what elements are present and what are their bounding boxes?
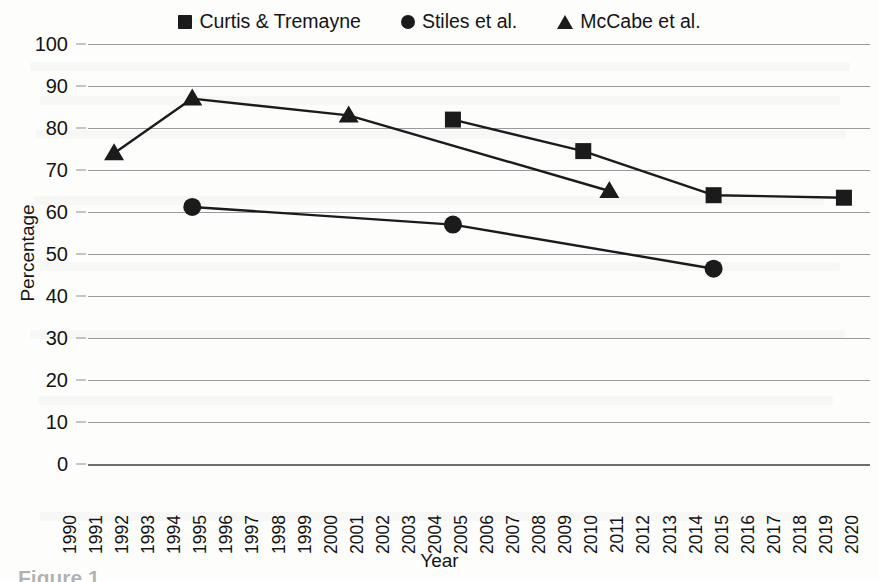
data-point-triangle: [104, 143, 124, 160]
legend-item-mccabe: McCabe et al.: [557, 12, 700, 32]
x-tick-label: 1999: [296, 515, 314, 554]
x-tick-label: 1990: [62, 515, 80, 554]
x-tick-label: 2008: [531, 515, 549, 554]
legend-item-stiles: Stiles et al.: [401, 12, 517, 32]
gridline: [88, 464, 870, 466]
series-circle: [183, 198, 722, 278]
data-point-triangle: [182, 89, 202, 106]
x-tick-label: 2009: [557, 515, 575, 554]
x-tick-label: 2005: [453, 515, 471, 554]
x-tick-label: 2010: [583, 515, 601, 554]
chart-legend: Curtis & Tremayne Stiles et al. McCabe e…: [0, 12, 879, 32]
x-tick-label: 2017: [765, 515, 783, 554]
y-tick-label: 60: [12, 202, 68, 222]
x-tick-label: 2001: [348, 515, 366, 554]
x-tick-label: 1996: [218, 515, 236, 554]
x-tick-label: 2002: [374, 515, 392, 554]
x-tick-label: 1991: [88, 515, 106, 554]
y-tick-mark: [76, 422, 86, 423]
data-point-circle: [183, 198, 201, 216]
y-tick-mark: [76, 338, 86, 339]
legend-label: Curtis & Tremayne: [199, 12, 360, 32]
x-tick-label: 1993: [140, 515, 158, 554]
x-tick-label: 2006: [479, 515, 497, 554]
legend-label: Stiles et al.: [422, 12, 517, 32]
series-line: [114, 99, 609, 191]
plot-area: 0102030405060708090100: [88, 44, 870, 464]
y-tick-mark: [76, 464, 86, 465]
x-axis-title: Year: [0, 550, 879, 572]
x-tick-label: 2004: [426, 515, 444, 554]
y-tick-mark: [76, 212, 86, 213]
triangle-marker-icon: [557, 15, 573, 29]
x-tick-label: 2019: [817, 515, 835, 554]
y-tick-mark: [76, 380, 86, 381]
x-tick-label: 1994: [166, 515, 184, 554]
series-layer: [88, 44, 870, 464]
y-tick-label: 10: [12, 412, 68, 432]
x-tick-label: 2007: [505, 515, 523, 554]
y-tick-mark: [76, 170, 86, 171]
data-point-circle: [705, 260, 723, 278]
y-tick-label: 20: [12, 370, 68, 390]
x-tick-label: 2013: [661, 515, 679, 554]
x-axis-ticks: 1990199119921993199419951996199719981999…: [88, 468, 870, 534]
x-tick-label: 2000: [322, 515, 340, 554]
y-tick-label: 50: [12, 244, 68, 264]
circle-marker-icon: [401, 15, 415, 29]
series-line: [453, 120, 844, 198]
figure-caption: Figure 1: [18, 566, 100, 582]
y-tick-label: 70: [12, 160, 68, 180]
y-tick-label: 40: [12, 286, 68, 306]
y-tick-label: 80: [12, 118, 68, 138]
x-tick-label: 1992: [114, 515, 132, 554]
series-triangle: [104, 89, 619, 198]
y-tick-label: 30: [12, 328, 68, 348]
x-tick-label: 2014: [687, 515, 705, 554]
series-square: [445, 112, 852, 206]
x-tick-label: 2015: [713, 515, 731, 554]
y-tick-label: 100: [12, 34, 68, 54]
data-point-square: [575, 143, 591, 159]
y-tick-mark: [76, 254, 86, 255]
x-tick-label: 2016: [739, 515, 757, 554]
x-tick-label: 1995: [192, 515, 210, 554]
data-point-square: [445, 112, 461, 128]
x-tick-label: 2020: [844, 515, 862, 554]
x-tick-label: 2018: [791, 515, 809, 554]
data-point-square: [836, 190, 852, 206]
x-tick-label: 2011: [609, 515, 627, 553]
x-tick-label: 1997: [244, 515, 262, 554]
x-tick-label: 1998: [270, 515, 288, 554]
y-tick-mark: [76, 128, 86, 129]
square-marker-icon: [178, 15, 192, 29]
data-point-square: [706, 187, 722, 203]
data-point-circle: [444, 216, 462, 234]
x-tick-label: 2003: [400, 515, 418, 554]
y-tick-label: 0: [12, 454, 68, 474]
y-tick-mark: [76, 296, 86, 297]
y-tick-label: 90: [12, 76, 68, 96]
y-tick-mark: [76, 44, 86, 45]
y-tick-mark: [76, 86, 86, 87]
legend-label: McCabe et al.: [580, 12, 700, 32]
x-tick-label: 2012: [635, 515, 653, 554]
legend-item-curtis-tremayne: Curtis & Tremayne: [178, 12, 360, 32]
